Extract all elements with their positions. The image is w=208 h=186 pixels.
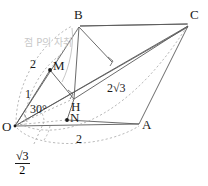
edge-H-C [74,26,188,99]
length-label-2-base: 2 [76,133,82,145]
edge-B-C2 [80,24,188,26]
dot-M [48,68,52,72]
geometry-figure [0,0,208,186]
length-label-2-OM: 2 [30,58,36,70]
dot-O [14,125,17,128]
arc-angle-base [44,126,50,140]
angle-label-30: 30° [30,103,47,115]
edge-M-H [50,70,74,99]
fraction-numerator: √3 [14,150,31,163]
vertex-label-B: B [74,8,83,21]
locus-annotation-text: 점 P의 자취 [24,38,72,48]
height-fraction: √3 2 [14,150,31,176]
point-label-N: N [70,111,79,124]
length-label-2sqrt3: 2√3 [107,82,126,94]
point-label-M: M [53,59,65,72]
length-label-1: 1 [25,88,31,100]
point-dots [14,68,69,127]
vertex-label-O: O [2,120,11,133]
dot-N [65,118,69,122]
fraction-denominator: 2 [14,164,31,177]
edge-B-H [74,27,79,99]
vertex-label-C: C [190,8,199,21]
edge-B-foot-OC [79,27,112,62]
vertex-label-A: A [142,118,151,131]
